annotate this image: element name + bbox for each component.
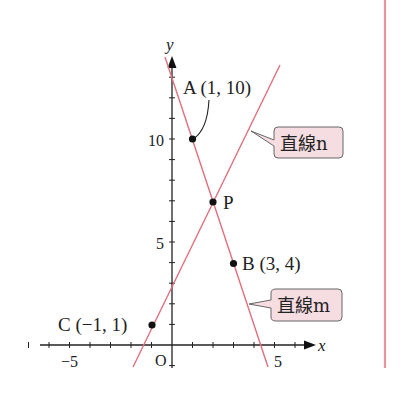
x-axis-label: x (317, 336, 326, 355)
y-axis-label: y (164, 35, 174, 54)
point-a-label: A (1, 10) (183, 77, 251, 99)
callout-line-n-label: 直線n (280, 133, 328, 154)
point-p (209, 198, 216, 205)
callout-line-n: 直線n (251, 127, 343, 158)
x-axis-arrow-icon (304, 341, 316, 350)
point-c (148, 321, 155, 328)
coordinate-diagram: x y O −5 5 5 10 A (1, 10) P B (3, 4) C (… (0, 0, 402, 403)
callout-line-m-label: 直線m (277, 295, 330, 316)
x-tick-label-5: 5 (274, 353, 282, 370)
line-n (133, 65, 280, 367)
y-axis-arrow-icon (168, 56, 177, 68)
point-b-label: B (3, 4) (242, 253, 301, 275)
callout-line-m: 直線m (249, 289, 342, 321)
y-axis (169, 66, 175, 368)
y-tick-label-5: 5 (156, 235, 164, 252)
origin-label: O (155, 352, 167, 369)
point-a (189, 135, 196, 142)
x-axis (29, 342, 309, 348)
point-a-leader (193, 100, 209, 139)
y-tick-label-10: 10 (148, 132, 164, 149)
line-m (165, 57, 268, 367)
point-b (230, 260, 237, 267)
point-c-label: C (−1, 1) (58, 314, 127, 336)
x-tick-label-neg5: −5 (61, 353, 78, 370)
point-p-label: P (223, 192, 234, 213)
